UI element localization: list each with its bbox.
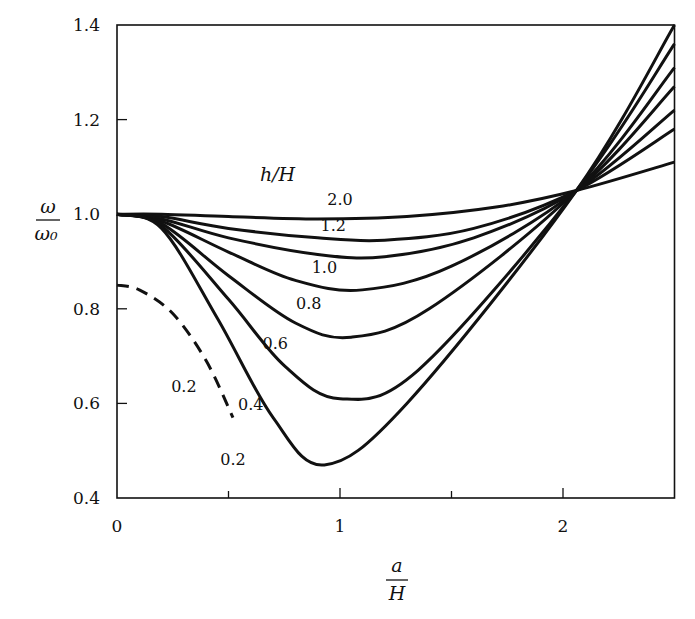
legend-title: h/H: [260, 163, 296, 185]
plot-border: [117, 25, 675, 498]
y-label-denominator: ω₀: [34, 222, 57, 244]
curve-label: 0.4: [238, 395, 263, 414]
y-label-numerator: ω: [40, 195, 56, 217]
y-tick-label: 1.4: [73, 15, 100, 35]
y-axis-label: ω ω₀: [34, 195, 60, 244]
curve-label: 1.0: [312, 258, 337, 277]
y-tick-label: 0.4: [73, 488, 100, 508]
curve-h-over-H-0-2-dashed: [117, 285, 233, 417]
y-tick-label: 0.6: [73, 393, 100, 413]
y-tick-label: 1.2: [73, 110, 100, 130]
curve-label: 1.2: [321, 216, 346, 235]
curve-label: 0.8: [296, 294, 321, 313]
x-tick-label: 1: [335, 516, 346, 536]
curves: [117, 25, 675, 465]
curve-label: 0.2: [220, 450, 245, 469]
curve-label: 2.0: [327, 190, 352, 209]
curve-h-over-H-0-8: [117, 86, 675, 290]
y-tick-label: 0.8: [73, 299, 100, 319]
curve-h-over-H-1-2: [117, 129, 675, 241]
x-tick-label: 0: [112, 516, 123, 536]
curve-label: 0.2: [171, 377, 196, 396]
plot-frame: [117, 25, 675, 498]
chart: 0120.40.60.81.01.21.4 h/H2.01.21.00.80.6…: [0, 0, 695, 619]
x-label-numerator: a: [391, 554, 402, 576]
curve-h-over-H-0-4: [117, 44, 675, 400]
curve-labels: h/H2.01.21.00.80.60.40.20.2: [171, 163, 353, 469]
curve-label: 0.6: [263, 334, 288, 353]
x-label-denominator: H: [388, 582, 406, 604]
x-tick-label: 2: [558, 516, 569, 536]
x-axis-label: a H: [386, 554, 408, 604]
curve-h-over-H-0-2: [117, 25, 675, 465]
curve-h-over-H-0-6: [117, 68, 675, 338]
y-tick-label: 1.0: [73, 204, 100, 224]
